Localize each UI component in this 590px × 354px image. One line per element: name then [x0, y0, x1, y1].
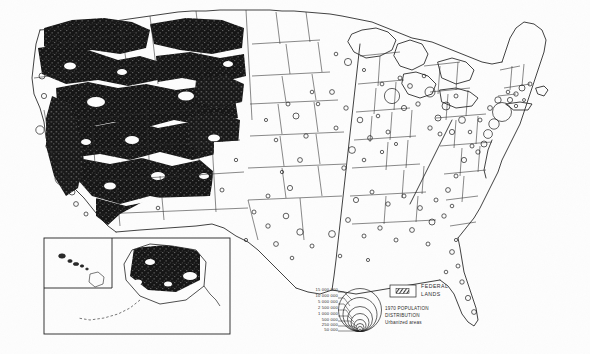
population-legend-title-line1: 1970 POPULATION	[385, 306, 429, 313]
legend-value-5000000: 5 000 000	[284, 300, 338, 304]
us-federal-lands-population-map: 15 000 000 10 000 000 5 000 000 2 500 00…	[0, 0, 590, 354]
legend-value-2500000: 2 500 000	[284, 306, 338, 310]
legend-value-50000: 50 000	[284, 328, 338, 332]
federal-lands-label-line2: LANDS	[421, 291, 441, 298]
population-legend-title-line2: DISTRIBUTION	[385, 313, 420, 320]
legend-value-10000000: 10 000 000	[284, 294, 338, 298]
legend-value-1000000: 1 000 000	[284, 312, 338, 316]
federal-lands-label-line1: FEDERAL	[421, 283, 448, 290]
legend-value-250000: 250 000	[284, 323, 338, 327]
legend-value-15000000: 15 000 000	[284, 288, 338, 292]
legend-value-500000: 500 000	[284, 318, 338, 322]
population-legend-subtitle: Urbanized areas	[385, 320, 422, 327]
